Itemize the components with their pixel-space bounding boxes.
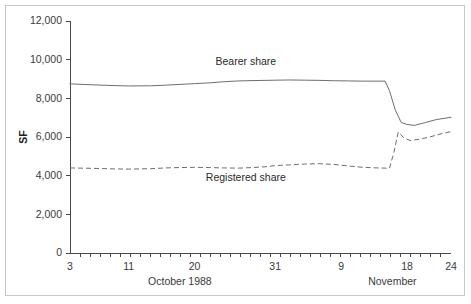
series-line-registered-share xyxy=(70,132,451,170)
x-period-label: October 1988 xyxy=(148,275,212,287)
y-tick-label: 10,000 xyxy=(30,53,62,65)
x-tick-label: 24 xyxy=(445,260,457,272)
chart-figure: 02,0004,0006,0008,00010,00012,0003112031… xyxy=(0,0,471,304)
y-tick-label: 8,000 xyxy=(36,92,62,104)
y-tick-label: 2,000 xyxy=(36,208,62,220)
x-tick-label: 31 xyxy=(269,260,281,272)
series-label-bearer-share: Bearer share xyxy=(215,55,276,67)
x-tick-label: 18 xyxy=(401,260,413,272)
y-tick-label: 6,000 xyxy=(36,130,62,142)
y-tick-label: 12,000 xyxy=(30,14,62,26)
x-tick-label: 20 xyxy=(189,260,201,272)
series-line-bearer-share xyxy=(70,80,451,125)
x-tick-label: 11 xyxy=(123,260,134,272)
y-tick-label: 0 xyxy=(56,246,62,258)
y-tick-label: 4,000 xyxy=(36,169,62,181)
x-tick-label: 9 xyxy=(338,260,344,272)
x-period-label: November xyxy=(368,275,417,287)
x-tick-label: 3 xyxy=(67,260,73,272)
series-label-registered-share: Registered share xyxy=(206,171,286,183)
line-chart: 02,0004,0006,0008,00010,00012,0003112031… xyxy=(0,0,471,304)
y-axis-title: SF xyxy=(17,130,29,144)
